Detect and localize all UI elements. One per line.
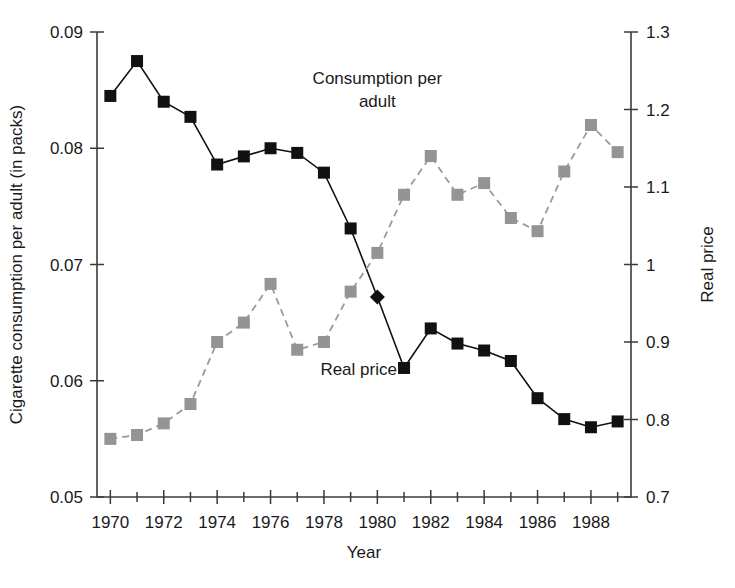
- y-axis-right-tick-label: 1.2: [646, 101, 670, 120]
- x-axis-tick-label: 1986: [519, 513, 557, 532]
- data-point-marker: [558, 166, 570, 178]
- x-axis-tick-label: 1976: [252, 513, 290, 532]
- data-point-marker: [184, 398, 196, 410]
- y-axis-right-tick-label: 0.7: [646, 488, 670, 507]
- y-axis-left-tick-label: 0.05: [50, 488, 83, 507]
- annotation-consumption-per-adult: Consumption per: [313, 69, 443, 88]
- data-point-marker: [131, 429, 143, 441]
- x-axis-tick-label: 1978: [305, 513, 343, 532]
- y-axis-right-tick-label: 1.3: [646, 23, 670, 42]
- data-point-marker: [211, 336, 223, 348]
- data-point-marker: [238, 150, 250, 162]
- data-point-marker: [478, 177, 490, 189]
- data-point-marker: [291, 344, 303, 356]
- data-point-marker: [291, 147, 303, 159]
- x-axis-tick-label: 1974: [198, 513, 236, 532]
- y-axis-left-title: Cigarette consumption per adult (in pack…: [7, 105, 26, 424]
- data-point-marker: [612, 146, 624, 158]
- y-axis-right-tick-label: 1.1: [646, 178, 670, 197]
- data-point-marker: [532, 225, 544, 237]
- data-point-marker: [585, 119, 597, 131]
- x-axis-tick-label: 1980: [358, 513, 396, 532]
- y-axis-right-title: Real price: [698, 226, 717, 303]
- data-point-marker: [238, 317, 250, 329]
- x-axis-tick-label: 1984: [465, 513, 503, 532]
- data-point-marker: [398, 189, 410, 201]
- chart-figure: 0.050.060.070.080.090.70.80.911.11.21.31…: [0, 0, 735, 588]
- data-point-marker: [612, 415, 624, 427]
- data-point-marker: [158, 96, 170, 108]
- data-point-marker: [451, 338, 463, 350]
- data-point-marker: [558, 413, 570, 425]
- x-axis-tick-label: 1970: [91, 513, 129, 532]
- data-point-marker: [532, 392, 544, 404]
- data-point-marker: [371, 247, 383, 259]
- data-point-marker: [425, 150, 437, 162]
- data-point-marker: [398, 362, 410, 374]
- data-point-marker: [158, 417, 170, 429]
- y-axis-left-tick-label: 0.09: [50, 23, 83, 42]
- series-line: [110, 125, 617, 439]
- data-point-marker: [104, 90, 116, 102]
- y-axis-left-tick-label: 0.07: [50, 256, 83, 275]
- data-point-marker: [131, 55, 143, 67]
- x-axis-title: Year: [347, 543, 382, 562]
- data-point-marker-diamond: [370, 290, 385, 305]
- data-point-marker: [104, 433, 116, 445]
- data-point-marker: [345, 222, 357, 234]
- x-axis-tick-label: 1982: [412, 513, 450, 532]
- data-point-marker: [505, 355, 517, 367]
- cigarette-consumption-vs-real-price-chart: 0.050.060.070.080.090.70.80.911.11.21.31…: [0, 0, 735, 588]
- data-point-marker: [585, 421, 597, 433]
- data-point-marker: [505, 212, 517, 224]
- data-point-marker: [478, 345, 490, 357]
- data-point-marker: [451, 189, 463, 201]
- data-point-marker: [345, 286, 357, 298]
- data-point-marker: [265, 278, 277, 290]
- y-axis-right-tick-label: 1: [646, 256, 655, 275]
- y-axis-left-tick-label: 0.06: [50, 372, 83, 391]
- y-axis-right-tick-label: 0.8: [646, 411, 670, 430]
- data-point-marker: [318, 167, 330, 179]
- data-point-marker: [184, 111, 196, 123]
- data-point-marker: [265, 142, 277, 154]
- x-axis-tick-label: 1972: [145, 513, 183, 532]
- y-axis-left-ticks: 0.050.060.070.080.09: [50, 23, 104, 507]
- data-point-marker: [318, 336, 330, 348]
- y-axis-right-tick-label: 0.9: [646, 333, 670, 352]
- series-annotations: Consumption peradultReal price: [313, 69, 443, 379]
- annotation-real-price: Real price: [320, 360, 397, 379]
- data-point-marker: [211, 159, 223, 171]
- y-axis-left-tick-label: 0.08: [50, 139, 83, 158]
- series-real-price: [104, 119, 623, 445]
- annotation-consumption-per-adult: adult: [359, 92, 396, 111]
- data-point-marker: [425, 322, 437, 334]
- x-axis-tick-label: 1988: [572, 513, 610, 532]
